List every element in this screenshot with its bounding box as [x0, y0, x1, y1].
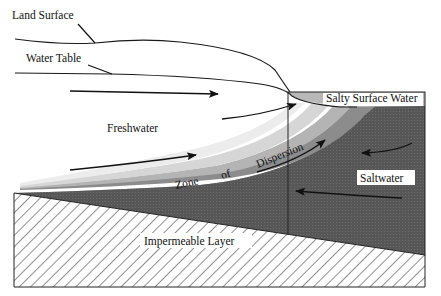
label-land-surface: Land Surface: [12, 9, 74, 21]
water-table-leader: [88, 65, 112, 74]
label-freshwater: Freshwater: [107, 122, 158, 134]
label-water-table: Water Table: [26, 52, 81, 64]
water-table-line: [15, 73, 357, 107]
land-surface-line: [15, 39, 290, 92]
flow-arrow-icon: [70, 91, 218, 94]
label-saltwater: Saltwater: [360, 172, 404, 184]
label-salty-surface-water: Salty Surface Water: [326, 92, 418, 105]
label-impermeable-layer: Impermeable Layer: [144, 235, 235, 248]
saltwater-intrusion-diagram: Land Surface Water Table Freshwater Salt…: [0, 0, 441, 296]
land-surface-leader: [78, 24, 95, 43]
